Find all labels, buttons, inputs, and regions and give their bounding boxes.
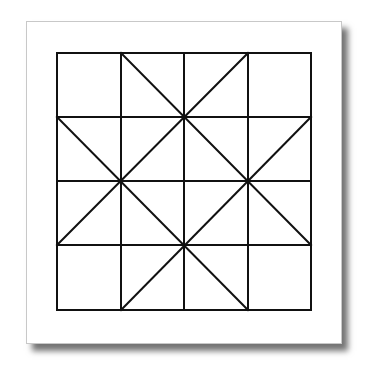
diagonal-line <box>57 53 248 245</box>
diagonal-line <box>57 117 248 310</box>
quilt-star-diagram <box>0 0 365 369</box>
diagonal-line <box>121 53 311 245</box>
figure-stage <box>0 0 365 369</box>
diagonal-line <box>121 117 311 310</box>
grid-lines <box>57 53 311 310</box>
